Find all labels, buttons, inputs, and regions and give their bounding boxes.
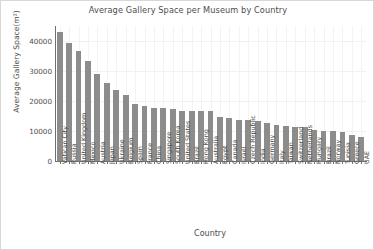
y-axis-ticks: 010000200003000040000: [9, 1, 52, 250]
x-tick-label: Australia: [213, 136, 219, 164]
chart-title: Average Gallery Space per Museum by Coun…: [1, 5, 374, 15]
x-tick-label: Hungary: [316, 137, 322, 164]
x-tick-label: Netherlands: [307, 125, 313, 164]
x-tick-label: South Korea: [175, 125, 181, 164]
x-tick-label: Japan: [109, 146, 115, 164]
x-tick-label: Vatican City: [62, 126, 68, 164]
x-tick-label: Italy: [279, 150, 285, 164]
x-tick-label: Greece: [354, 141, 360, 164]
x-tick-label: Singapore: [166, 132, 172, 164]
x-tick-label: Israel: [241, 147, 247, 164]
x-tick-label: Tunisia: [345, 142, 351, 164]
y-tick-label: 10000: [12, 128, 52, 135]
x-tick-label: Hong Kong: [203, 129, 209, 164]
y-tick-label: 30000: [12, 68, 52, 75]
x-tick-label: United Kingdom: [81, 113, 87, 164]
x-tick-label: Taiwan: [288, 142, 294, 164]
x-tick-label: India: [260, 148, 266, 164]
x-tick-label: Canada: [232, 140, 238, 164]
x-tick-label: Mexico: [90, 142, 96, 164]
x-tick-label: Norway: [335, 140, 341, 164]
x-tick-label: France: [147, 143, 153, 164]
x-axis-label: Country: [54, 229, 366, 238]
x-tick-label: Egypt: [222, 146, 228, 164]
x-tick-label: United States: [185, 121, 191, 164]
y-tick-label: 20000: [12, 98, 52, 105]
y-axis-spine: [55, 26, 56, 162]
x-tick-label: Germany: [269, 135, 275, 164]
x-tick-label: Belgium: [128, 138, 134, 164]
x-tick-label: Czech Republic: [250, 115, 256, 164]
x-tick-label: Brazil: [194, 146, 200, 164]
x-tick-label: Spain: [137, 146, 143, 164]
x-tick-label: Switzerland: [298, 127, 304, 164]
x-tick-label: Austria: [100, 141, 106, 164]
x-tick-label: China: [156, 146, 162, 164]
x-tick-label: Ukraine: [119, 139, 125, 164]
y-tick-label: 40000: [12, 38, 52, 45]
y-tick-label: 0: [12, 158, 52, 165]
chart-figure: Average Gallery Space per Museum by Coun…: [0, 0, 374, 250]
x-tick-label: UAE: [364, 151, 370, 164]
x-tick-label: Brazil: [326, 146, 332, 164]
x-tick-label: Russia: [71, 143, 77, 164]
